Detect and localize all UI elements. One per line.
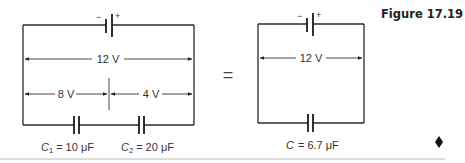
capacitor-c1-icon xyxy=(74,116,79,134)
left-battery-icon xyxy=(106,14,112,37)
left-battery-pos-sign: + xyxy=(115,11,120,21)
capacitor-c-icon xyxy=(308,114,313,132)
right-circuit: − + 12 V C= 6.7 μF xyxy=(258,10,364,151)
equivalence-sign: = xyxy=(223,65,234,85)
c2-label: C2= 20 μF xyxy=(121,141,174,155)
c1-label: C1= 10 μF xyxy=(41,141,94,155)
figure-canvas: − + 12 V 8 V 4 V C1= 10 μF C xyxy=(0,0,465,163)
right-battery-neg-sign: − xyxy=(297,11,302,21)
left-circuit: − + 12 V 8 V 4 V C1= 10 μF C xyxy=(23,11,194,155)
left-total-voltage-label: 12 V xyxy=(97,53,120,65)
figure-label: Figure 17.19 xyxy=(381,7,463,21)
v1-label: 8 V xyxy=(58,88,75,100)
right-total-voltage-label: 12 V xyxy=(300,52,323,64)
left-battery-neg-sign: − xyxy=(96,12,101,22)
c-equivalent-label: C= 6.7 μF xyxy=(286,139,339,151)
right-battery-pos-sign: + xyxy=(316,10,321,20)
end-diamond-icon xyxy=(435,136,443,148)
v2-label: 4 V xyxy=(143,88,160,100)
right-battery-icon xyxy=(307,13,313,36)
capacitor-c2-icon xyxy=(139,116,144,134)
